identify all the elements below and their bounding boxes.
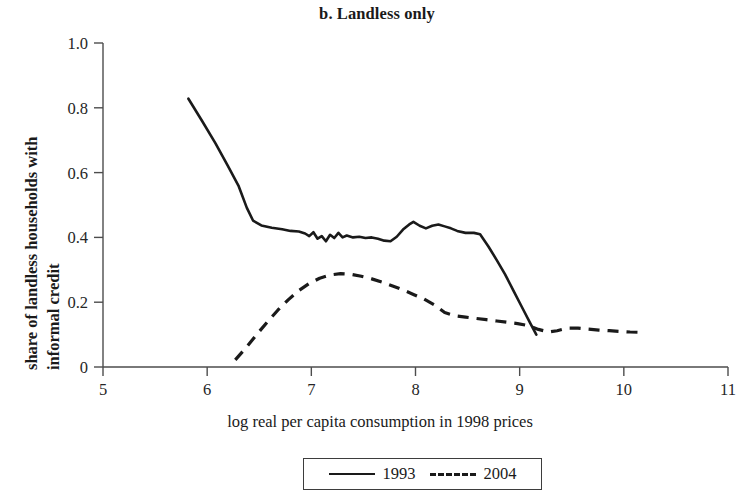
data-series-group [188, 99, 640, 360]
legend-entry-2004: 2004 [430, 464, 517, 484]
chart-figure: b. Landless only share of landless house… [0, 0, 754, 494]
legend-label-2004: 2004 [484, 464, 517, 484]
series-line-1993 [188, 99, 536, 335]
y-tick-label: 0.4 [67, 228, 88, 247]
x-tick-label: 9 [516, 380, 524, 399]
x-tick-label: 6 [203, 380, 211, 399]
y-tick-label: 0.6 [67, 164, 88, 183]
axes-group [103, 43, 728, 367]
x-axis-label: log real per capita consumption in 1998 … [60, 412, 700, 432]
x-tick-label: 11 [720, 380, 736, 399]
x-tick-label: 10 [616, 380, 633, 399]
legend-swatch-solid-line-icon [329, 473, 375, 475]
chart-legend: 1993 2004 [303, 458, 542, 490]
x-tick-label: 8 [411, 380, 419, 399]
legend-entry-1993: 1993 [329, 464, 416, 484]
x-tick-label: 5 [99, 380, 107, 399]
y-tick-label: 1.0 [67, 34, 88, 53]
legend-swatch-dashed-line-icon [430, 473, 476, 476]
y-tick-label: 0 [80, 358, 88, 377]
y-tick-label: 0.8 [67, 99, 88, 118]
x-tick-label: 7 [307, 380, 315, 399]
axis-ticks-group [94, 43, 728, 376]
y-tick-label: 0.2 [67, 293, 88, 312]
series-line-2004 [235, 274, 640, 360]
legend-label-1993: 1993 [383, 464, 416, 484]
axis-tick-labels-group: 56789101100.20.40.60.81.0 [67, 34, 736, 399]
